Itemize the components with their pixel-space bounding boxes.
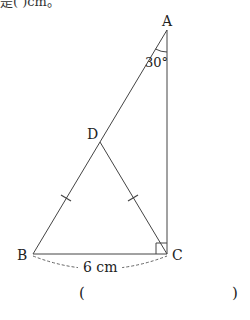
point-label-d: D: [87, 126, 98, 142]
point-label-b: B: [17, 247, 27, 263]
angle-label-a: 30°: [145, 55, 168, 70]
point-label-c: C: [172, 247, 183, 263]
answer-open-paren: (: [79, 284, 85, 302]
angle-arc-a: [156, 49, 168, 52]
answer-close-paren: ): [232, 284, 238, 302]
answer-blank[interactable]: [90, 282, 228, 304]
tick-mark-dc: [128, 195, 138, 201]
tick-mark-db: [61, 195, 71, 201]
triangle-diagram: A B C D 30° 6 cm: [0, 0, 250, 320]
point-label-a: A: [161, 13, 173, 29]
measure-label-bc: 6 cm: [83, 259, 117, 275]
